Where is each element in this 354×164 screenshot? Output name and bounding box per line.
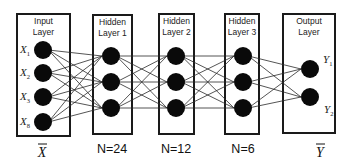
hidden2-neuron — [167, 73, 185, 91]
input-title-line2: Layer — [33, 27, 54, 37]
hidden3-title-line1: Hidden — [229, 16, 256, 26]
hidden2-neuron — [167, 99, 185, 117]
hidden1-title-line1: Hidden — [99, 17, 126, 27]
hidden3-neuron-count: N=6 — [231, 142, 254, 156]
input-vector-label: X — [37, 145, 47, 160]
output-vector-label: Y — [316, 145, 326, 160]
hidden2-title-line2: Layer 2 — [162, 27, 191, 37]
hidden1-neuron — [102, 47, 120, 65]
hidden3-neuron — [234, 99, 252, 117]
input-neuron — [34, 41, 52, 59]
hidden1-title-line2: Layer 1 — [98, 28, 127, 38]
hidden2-neuron — [167, 47, 185, 65]
hidden2-neuron-count: N=12 — [161, 142, 191, 156]
hidden2-title-line1: Hidden — [163, 16, 190, 26]
hidden3-neuron — [234, 47, 252, 65]
input-neuron — [34, 64, 52, 82]
hidden1-neuron-count: N=24 — [97, 142, 127, 156]
hidden3-title-line2: Layer 3 — [228, 27, 257, 37]
output-title-line1: Output — [296, 16, 322, 26]
input-title-line1: Input — [34, 16, 54, 26]
output-title-line2: Layer — [298, 27, 319, 37]
neural-network-diagram: InputLayerX1X2X3X8XHiddenLayer 1N=24Hidd… — [0, 0, 354, 164]
output-neuron — [301, 60, 319, 78]
input-neuron — [34, 113, 52, 131]
input-neuron — [34, 88, 52, 106]
hidden1-neuron — [102, 99, 120, 117]
hidden3-neuron — [234, 73, 252, 91]
output-neuron — [301, 88, 319, 106]
hidden1-neuron — [102, 73, 120, 91]
